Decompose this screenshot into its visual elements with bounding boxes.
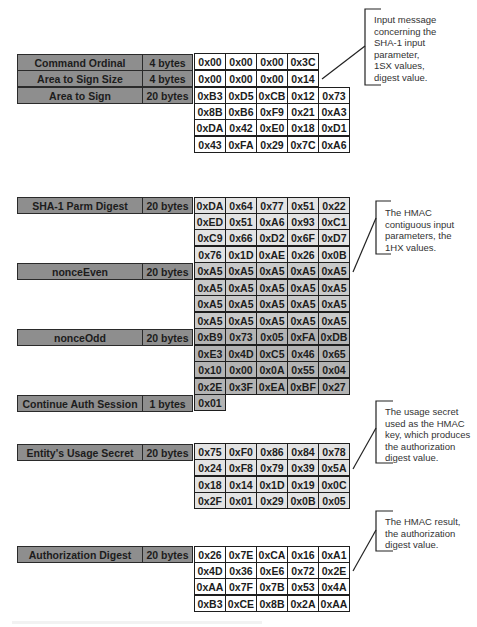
bracket-hmac-input	[376, 201, 391, 254]
leader-usage-secret	[353, 428, 376, 469]
faint-caption-remnant	[12, 621, 262, 624]
diagram-canvas: Command Ordinal 4 bytes 0x00 0x00 0x00 0…	[0, 0, 477, 627]
leader-hmac-input	[353, 218, 376, 272]
bracket-auth-digest	[376, 511, 393, 551]
leader-input-message	[322, 46, 365, 79]
annotation-leader-lines	[0, 0, 477, 627]
leader-auth-digest	[353, 530, 376, 571]
bracket-usage-secret	[376, 401, 393, 463]
bracket-input-message	[365, 9, 381, 85]
